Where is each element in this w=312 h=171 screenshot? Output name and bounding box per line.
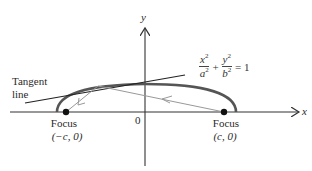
equation-term-y: y2 b2: [222, 54, 232, 79]
focus-left-dot: [63, 109, 69, 115]
focus-right-coords: (c, 0): [213, 131, 236, 142]
focus-right-label: Focus: [213, 118, 239, 129]
ellipse-equation: x2 a2 + y2 b2 = 1: [199, 54, 249, 79]
equation-plus: +: [212, 61, 218, 73]
origin-label: 0: [135, 115, 141, 126]
focus-left-coords: (−c, 0): [52, 131, 83, 142]
focus-left-label: Focus: [51, 118, 77, 129]
tangent-label-line2: line: [12, 89, 29, 100]
y-axis-label: y: [141, 12, 146, 23]
focus-right-dot: [221, 109, 227, 115]
equation-rhs: = 1: [235, 61, 249, 73]
incident-ray-arrow-icon: [162, 96, 172, 103]
tangent-label-line1: Tangent: [12, 76, 47, 87]
x-axis-label: x: [302, 106, 307, 117]
equation-term-x: x2 a2: [199, 54, 209, 79]
